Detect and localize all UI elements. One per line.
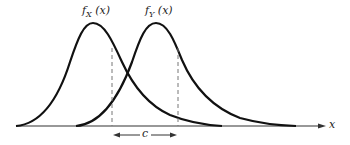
- curve-fx: [16, 23, 222, 126]
- label-x-axis: x: [329, 118, 335, 131]
- label-fx: fX (x): [82, 4, 110, 19]
- offset-arrowhead-left-icon: [113, 133, 120, 138]
- label-offset-c: c: [142, 127, 148, 140]
- x-axis-arrow-icon: [318, 124, 326, 129]
- offset-arrowhead-right-icon: [170, 133, 177, 138]
- density-diagram: [0, 0, 350, 145]
- curve-fy: [76, 23, 296, 126]
- label-fy: fY (x): [145, 4, 173, 19]
